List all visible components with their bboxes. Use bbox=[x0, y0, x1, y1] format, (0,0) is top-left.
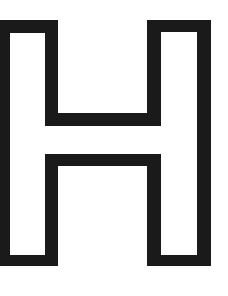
letter-h-outline-icon bbox=[0, 0, 228, 296]
letter-h-graphic bbox=[0, 0, 228, 296]
